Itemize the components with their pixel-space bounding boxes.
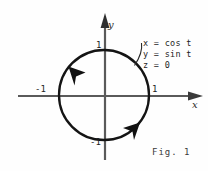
equation-line-z: z = 0: [143, 61, 170, 70]
x-tick-label-negative-one: -1: [35, 85, 46, 94]
circle-direction-arrowhead-upper-left: [69, 67, 86, 86]
y-tick-label-negative-one: -1: [90, 138, 101, 147]
figure-container: y x 1 -1 -1 1 x = cos t y = sin t z = 0 …: [0, 0, 208, 171]
equation-line-x: x = cos t: [143, 39, 192, 48]
figure-drawing: [0, 0, 208, 171]
figure-caption: Fig. 1: [152, 148, 191, 157]
x-tick-label-positive-one: 1: [152, 85, 157, 94]
equation-line-y: y = sin t: [143, 50, 192, 59]
x-axis-label: x: [192, 100, 198, 110]
y-axis-label: y: [108, 20, 114, 30]
y-tick-label-positive-one: 1: [96, 41, 101, 50]
